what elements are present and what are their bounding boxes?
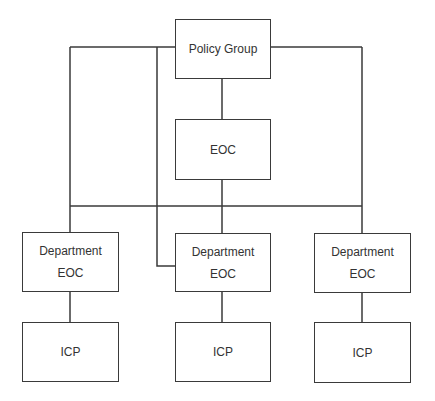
icp-label: ICP [213, 341, 233, 363]
department-label: Department [192, 241, 255, 263]
policy-group-label: Policy Group [189, 38, 258, 60]
eoc-label: EOC [349, 263, 375, 285]
department-eoc-left-node: Department EOC [22, 232, 119, 292]
eoc-label: EOC [210, 263, 236, 285]
department-label: Department [331, 241, 394, 263]
department-eoc-middle-node: Department EOC [175, 233, 271, 292]
icp-middle-node: ICP [175, 322, 271, 382]
eoc-node: EOC [175, 119, 271, 180]
eoc-label: EOC [210, 139, 236, 161]
icp-label: ICP [60, 341, 80, 363]
icp-left-node: ICP [22, 322, 119, 382]
department-eoc-right-node: Department EOC [314, 233, 411, 293]
icp-label: ICP [352, 342, 372, 364]
eoc-label: EOC [57, 262, 83, 284]
department-label: Department [39, 240, 102, 262]
icp-right-node: ICP [314, 322, 411, 383]
policy-group-node: Policy Group [175, 19, 271, 79]
